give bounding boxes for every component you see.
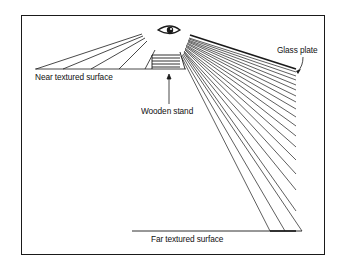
glass-plate-label: Glass plate [277, 45, 317, 55]
visual-cliff-diagram [0, 0, 344, 266]
wooden-stand-label: Wooden stand [141, 106, 193, 116]
wooden-stand [152, 52, 185, 69]
wooden-stand-arrow [167, 74, 171, 104]
eye-icon [158, 26, 180, 34]
far-surface-label: Far textured surface [151, 234, 223, 244]
glass-plate-arrow [296, 57, 303, 74]
near-surface-label: Near textured surface [35, 72, 113, 82]
